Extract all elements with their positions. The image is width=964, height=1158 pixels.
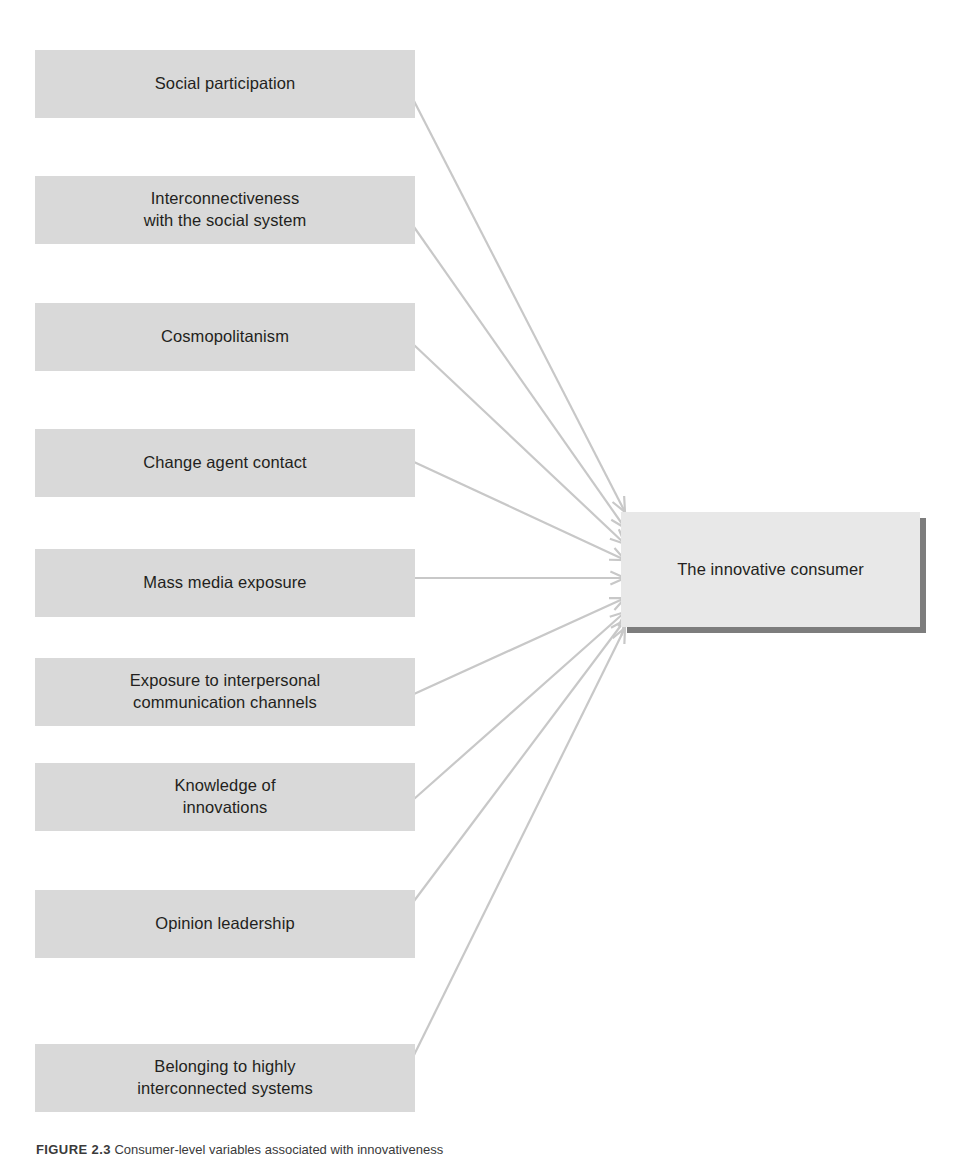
connector-interconnectiveness	[414, 227, 625, 528]
node-box-opinion-leadership[interactable]: Opinion leadership	[35, 890, 415, 958]
connector-knowledge-of-innovations	[414, 612, 625, 799]
connector-cosmopolitanism	[414, 345, 625, 544]
figure-caption: FIGURE 2.3 Consumer-level variables asso…	[36, 1142, 936, 1157]
node-label-change-agent-contact: Change agent contact	[143, 452, 306, 474]
node-box-cosmopolitanism[interactable]: Cosmopolitanism	[35, 303, 415, 371]
connector-opinion-leadership	[414, 620, 625, 901]
connector-social-participation	[414, 101, 625, 512]
node-box-social-participation[interactable]: Social participation	[35, 50, 415, 118]
node-box-change-agent-contact[interactable]: Change agent contact	[35, 429, 415, 497]
connector-belonging-interconnected	[414, 628, 625, 1055]
node-box-mass-media-exposure[interactable]: Mass media exposure	[35, 549, 415, 617]
connector-exposure-interpersonal	[414, 598, 625, 694]
node-label-mass-media-exposure: Mass media exposure	[143, 572, 306, 594]
node-label-knowledge-of-innovations: Knowledge of innovations	[174, 775, 275, 819]
arrowhead-social-participation	[613, 496, 625, 512]
arrowhead-belonging-interconnected	[613, 628, 625, 644]
node-label-cosmopolitanism: Cosmopolitanism	[161, 326, 289, 348]
node-box-knowledge-of-innovations[interactable]: Knowledge of innovations	[35, 763, 415, 831]
connector-change-agent-contact	[414, 462, 625, 560]
connector-mass-media-exposure	[414, 571, 625, 584]
node-box-exposure-interpersonal[interactable]: Exposure to interpersonal communication …	[35, 658, 415, 726]
figure-caption-text: Consumer-level variables associated with…	[114, 1142, 443, 1157]
node-label-interconnectiveness: Interconnectiveness with the social syst…	[144, 188, 307, 232]
center-node-label: The innovative consumer	[677, 559, 864, 581]
node-label-exposure-interpersonal: Exposure to interpersonal communication …	[130, 670, 321, 714]
node-label-opinion-leadership: Opinion leadership	[155, 913, 294, 935]
figure-caption-code: FIGURE 2.3	[36, 1142, 111, 1157]
node-label-social-participation: Social participation	[155, 73, 296, 95]
node-box-belonging-interconnected[interactable]: Belonging to highly interconnected syste…	[35, 1044, 415, 1112]
figure-diagram: Social participationInterconnectiveness …	[0, 0, 964, 1158]
node-label-belonging-interconnected: Belonging to highly interconnected syste…	[137, 1056, 313, 1100]
center-node-innovative-consumer[interactable]: The innovative consumer	[621, 512, 920, 627]
node-box-interconnectiveness[interactable]: Interconnectiveness with the social syst…	[35, 176, 415, 244]
